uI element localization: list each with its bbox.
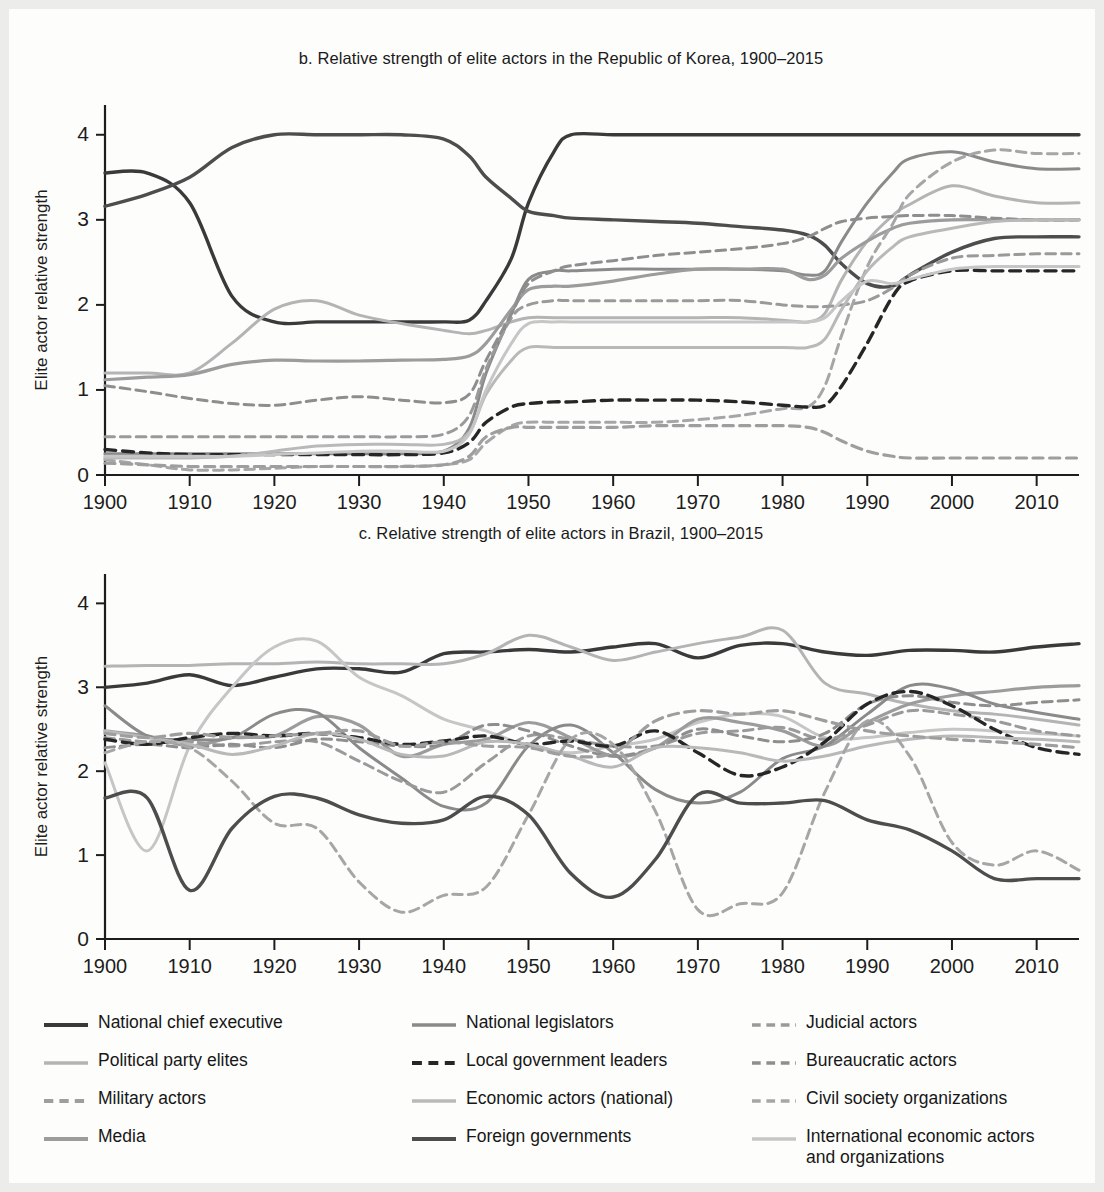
legend-label: Military actors: [98, 1088, 206, 1109]
legend-item[interactable]: Military actors: [43, 1088, 411, 1111]
x-tick-label: 2000: [930, 491, 975, 513]
x-tick-label: 1960: [591, 955, 636, 977]
legend-label: Civil society organizations: [806, 1088, 1007, 1109]
x-tick-label: 1920: [252, 955, 297, 977]
legend-swatch-bureaucratic_actors: [751, 1053, 797, 1073]
figure-container: b. Relative strength of elite actors in …: [0, 0, 1104, 1192]
y-tick-label: 2: [77, 759, 89, 782]
x-tick-label: 1990: [845, 955, 890, 977]
legend-label: National chief executive: [98, 1012, 283, 1033]
legend-swatch-national_chief_executive: [43, 1015, 89, 1035]
legend-swatch-political_party_elites: [43, 1053, 89, 1073]
y-tick-label: 4: [77, 591, 89, 614]
legend-swatch-civil_society_organizations: [751, 1091, 797, 1111]
panel-brazil: c. Relative strength of elite actors in …: [9, 514, 1104, 1004]
y-tick-label: 4: [77, 122, 89, 145]
legend-label: Political party elites: [98, 1050, 248, 1071]
x-tick-label: 1910: [167, 955, 212, 977]
x-tick-label: 2010: [1014, 491, 1059, 513]
series-line: [105, 152, 1079, 454]
legend-item[interactable]: Judicial actors: [751, 1012, 1083, 1035]
x-tick-label: 1980: [760, 955, 805, 977]
y-tick-label: 3: [77, 675, 89, 698]
chart-legend: National chief executiveNational legisla…: [9, 1004, 1104, 1192]
legend-item[interactable]: International economic actorsand organiz…: [751, 1126, 1083, 1168]
panel-b-chart: 0123419001910192019301940195019601970198…: [9, 27, 1104, 527]
series-line: [105, 150, 1079, 471]
x-tick-label: 1980: [760, 491, 805, 513]
series-line: [105, 254, 1079, 437]
legend-item[interactable]: Foreign governments: [411, 1126, 751, 1149]
legend-swatch-national_legislators: [411, 1015, 457, 1035]
y-tick-label: 0: [77, 463, 89, 486]
legend-label: Bureaucratic actors: [806, 1050, 957, 1071]
legend-item[interactable]: National legislators: [411, 1012, 751, 1035]
panel-b-title: b. Relative strength of elite actors in …: [9, 49, 1104, 68]
legend-label: Foreign governments: [466, 1126, 631, 1147]
series-line: [105, 134, 1079, 324]
legend-swatch-military_actors: [43, 1091, 89, 1111]
legend-label: National legislators: [466, 1012, 614, 1033]
panel-korea: b. Relative strength of elite actors in …: [9, 27, 1104, 527]
legend-swatch-foreign_governments: [411, 1129, 457, 1149]
x-tick-label: 1930: [337, 491, 382, 513]
series-line: [105, 426, 1079, 467]
x-tick-label: 1940: [422, 955, 467, 977]
legend-item[interactable]: Political party elites: [43, 1050, 411, 1073]
x-tick-label: 1940: [422, 491, 467, 513]
x-tick-label: 1930: [337, 955, 382, 977]
x-tick-label: 1910: [167, 491, 212, 513]
series-line: [105, 215, 1079, 405]
legend-swatch-international_economic_actors: [751, 1129, 797, 1149]
x-tick-label: 1950: [506, 491, 551, 513]
x-tick-label: 1900: [83, 955, 128, 977]
legend-item[interactable]: National chief executive: [43, 1012, 411, 1035]
x-tick-label: 1990: [845, 491, 890, 513]
x-tick-label: 1970: [676, 955, 721, 977]
y-tick-label: 2: [77, 292, 89, 315]
y-tick-label: 1: [77, 377, 89, 400]
x-tick-label: 2010: [1014, 955, 1059, 977]
legend-label: Economic actors (national): [466, 1088, 673, 1109]
legend-label: International economic actorsand organiz…: [806, 1126, 1035, 1168]
x-tick-label: 1950: [506, 955, 551, 977]
legend-swatch-media: [43, 1129, 89, 1149]
y-axis-label: Elite actor relative strength: [32, 189, 51, 390]
legend-grid: National chief executiveNational legisla…: [43, 1012, 1083, 1164]
legend-swatch-local_government_leaders: [411, 1053, 457, 1073]
legend-item[interactable]: Civil society organizations: [751, 1088, 1083, 1111]
legend-label: Judicial actors: [806, 1012, 917, 1033]
legend-item[interactable]: Economic actors (national): [411, 1088, 751, 1111]
legend-swatch-judicial_actors: [751, 1015, 797, 1035]
x-tick-label: 1970: [676, 491, 721, 513]
x-tick-label: 1900: [83, 491, 128, 513]
x-tick-label: 1920: [252, 491, 297, 513]
legend-label: Local government leaders: [466, 1050, 667, 1071]
legend-item[interactable]: Local government leaders: [411, 1050, 751, 1073]
legend-swatch-economic_actors_national: [411, 1091, 457, 1111]
legend-item[interactable]: Bureaucratic actors: [751, 1050, 1083, 1073]
y-tick-label: 3: [77, 207, 89, 230]
legend-label: Media: [98, 1126, 146, 1147]
panel-c-title: c. Relative strength of elite actors in …: [9, 524, 1104, 543]
x-tick-label: 2000: [930, 955, 975, 977]
legend-item[interactable]: Media: [43, 1126, 411, 1149]
y-tick-label: 1: [77, 843, 89, 866]
x-tick-label: 1960: [591, 491, 636, 513]
panel-c-chart: 0123419001910192019301940195019601970198…: [9, 514, 1104, 1004]
y-axis-label: Elite actor relative strength: [32, 656, 51, 857]
y-tick-label: 0: [77, 927, 89, 950]
